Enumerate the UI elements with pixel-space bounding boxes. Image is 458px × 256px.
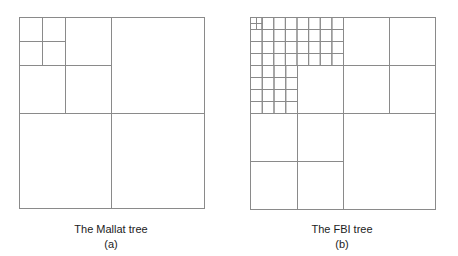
subband-cell — [332, 42, 344, 54]
wavelet-packet-diagrams — [0, 0, 458, 256]
mallat-caption: The Mallat tree (a) — [11, 222, 211, 252]
subband-cell — [274, 102, 286, 114]
subband-cell — [262, 18, 274, 30]
subband-cell — [285, 30, 297, 42]
subband-cell — [262, 102, 274, 114]
subband-cell — [20, 42, 43, 66]
fbi-tree-diagram — [251, 18, 436, 210]
subband-cell — [332, 18, 344, 30]
subband-cell — [390, 18, 436, 66]
subband-cell — [251, 66, 263, 78]
subband-cell — [309, 18, 321, 30]
subband-cell — [320, 42, 332, 54]
subband-cell — [286, 78, 298, 90]
subband-cell — [274, 30, 286, 42]
mallat-title: The Mallat tree — [11, 222, 211, 237]
subband-cell — [251, 114, 298, 162]
subband-cell — [285, 54, 297, 66]
subband-cell — [43, 18, 66, 42]
subband-cell — [257, 24, 263, 30]
subband-cell — [344, 66, 390, 114]
subband-cell — [285, 18, 297, 30]
subband-cell — [286, 90, 298, 102]
subband-cell — [297, 54, 309, 66]
subband-cell — [274, 42, 286, 54]
subband-cell — [66, 66, 112, 114]
subband-cell — [298, 114, 344, 162]
subband-cell — [262, 30, 274, 42]
subband-cell — [344, 114, 436, 210]
subband-cell — [332, 30, 344, 42]
subband-cell — [262, 42, 274, 54]
subband-cell — [309, 30, 321, 42]
subband-cell — [274, 90, 286, 102]
subband-cell — [66, 18, 112, 66]
subband-cell — [286, 102, 298, 114]
subband-cell — [274, 18, 286, 30]
subband-cell — [251, 18, 257, 24]
fbi-label: (b) — [242, 237, 442, 252]
fbi-title: The FBI tree — [242, 222, 442, 237]
subband-cell — [20, 66, 66, 114]
subband-cell — [43, 42, 66, 66]
subband-cell — [298, 66, 344, 114]
subband-cell — [262, 66, 274, 78]
subband-cell — [251, 30, 263, 42]
subband-cell — [320, 18, 332, 30]
subband-cell — [285, 42, 297, 54]
subband-cell — [286, 66, 298, 78]
subband-cell — [332, 54, 344, 66]
subband-cell — [20, 114, 112, 209]
subband-cell — [274, 54, 286, 66]
subband-cell — [251, 90, 263, 102]
mallat-tree-diagram — [20, 18, 205, 209]
subband-cell — [262, 90, 274, 102]
subband-cell — [390, 66, 436, 114]
subband-cell — [309, 42, 321, 54]
subband-cell — [298, 162, 344, 210]
fbi-caption: The FBI tree (b) — [242, 222, 442, 252]
subband-cell — [297, 42, 309, 54]
subband-cell — [251, 162, 298, 210]
mallat-label: (a) — [11, 237, 211, 252]
subband-cell — [251, 24, 257, 30]
subband-cell — [262, 78, 274, 90]
subband-cell — [344, 18, 390, 66]
subband-cell — [320, 30, 332, 42]
subband-cell — [262, 54, 274, 66]
subband-cell — [274, 78, 286, 90]
subband-cell — [297, 30, 309, 42]
subband-cell — [251, 42, 263, 54]
subband-cell — [20, 18, 43, 42]
subband-cell — [274, 66, 286, 78]
subband-cell — [251, 78, 263, 90]
subband-cell — [112, 114, 205, 209]
subband-cell — [112, 18, 205, 114]
subband-cell — [297, 18, 309, 30]
subband-cell — [257, 18, 263, 24]
subband-cell — [251, 54, 263, 66]
subband-cell — [251, 102, 263, 114]
subband-cell — [320, 54, 332, 66]
subband-cell — [309, 54, 321, 66]
